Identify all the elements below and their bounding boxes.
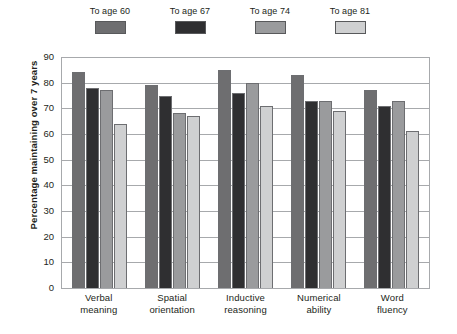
bar — [173, 113, 186, 288]
bar — [86, 88, 99, 288]
legend-label: To age 74 — [250, 6, 290, 17]
bar — [378, 106, 391, 288]
legend-swatch-to-age-74 — [255, 21, 286, 34]
x-tick-label: Wordfluency — [356, 292, 429, 316]
legend-label: To age 81 — [330, 6, 370, 17]
y-tick-label: 80 — [18, 78, 54, 88]
bar-groups — [63, 57, 428, 288]
x-tick-label: Verbalmeaning — [62, 292, 135, 316]
bar — [246, 83, 259, 288]
legend-label: To age 60 — [90, 6, 130, 17]
y-tick-label: 50 — [18, 155, 54, 165]
bar-group — [355, 57, 428, 288]
bar — [100, 90, 113, 288]
x-tick-label: Numericalability — [282, 292, 355, 316]
bar — [232, 93, 245, 288]
bar-chart: To age 60 To age 67 To age 74 To age 81 … — [0, 0, 457, 334]
bar-group — [136, 57, 209, 288]
bar — [291, 75, 304, 288]
legend-item-to-age-60: To age 60 — [70, 6, 150, 34]
y-tick-label: 60 — [18, 129, 54, 139]
bar — [159, 96, 172, 289]
bar — [145, 85, 158, 288]
bar — [392, 101, 405, 288]
bar — [72, 72, 85, 288]
y-tick-label: 40 — [18, 180, 54, 190]
x-tick-label: Inductivereasoning — [209, 292, 282, 316]
legend-item-to-age-81: To age 81 — [310, 6, 390, 34]
bar-group — [282, 57, 355, 288]
bar — [305, 101, 318, 288]
plot-area — [61, 57, 430, 289]
bar — [364, 90, 377, 288]
legend-item-to-age-74: To age 74 — [230, 6, 310, 34]
y-tick-label: 0 — [18, 283, 54, 293]
y-tick-label: 30 — [18, 206, 54, 216]
legend-swatch-to-age-67 — [175, 21, 206, 34]
legend-label: To age 67 — [170, 6, 210, 17]
bar — [187, 116, 200, 288]
legend-swatch-to-age-60 — [95, 21, 126, 34]
y-tick-label: 10 — [18, 257, 54, 267]
y-tick-label: 70 — [18, 103, 54, 113]
legend-swatch-to-age-81 — [335, 21, 366, 34]
bar-group — [209, 57, 282, 288]
legend-item-to-age-67: To age 67 — [150, 6, 230, 34]
y-tick-label: 90 — [18, 52, 54, 62]
y-axis-title: Percentage maintaining over 7 years — [26, 0, 42, 290]
bar — [319, 101, 332, 288]
bar — [333, 111, 346, 288]
bar — [218, 70, 231, 288]
x-axis-tick-labels: VerbalmeaningSpatialorientationInductive… — [62, 292, 429, 316]
x-tick-label: Spatialorientation — [135, 292, 208, 316]
bar — [260, 106, 273, 288]
chart-legend: To age 60 To age 67 To age 74 To age 81 — [70, 6, 390, 48]
bar — [406, 131, 419, 288]
bar — [114, 124, 127, 288]
bar-group — [63, 57, 136, 288]
y-tick-label: 20 — [18, 232, 54, 242]
